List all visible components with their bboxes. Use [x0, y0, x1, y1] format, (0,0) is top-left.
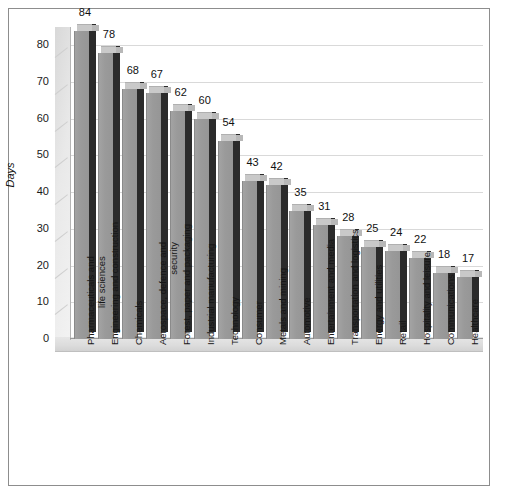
x-tick-label-line: Industrial manufacturing: [205, 244, 216, 345]
y-tick-label: 0: [19, 332, 49, 344]
bar-value-label: 78: [94, 28, 124, 40]
bar-top-face: [460, 270, 475, 277]
x-tick-label: Technology: [229, 297, 240, 345]
bar-top-side-face: [475, 271, 482, 277]
x-tick-label-line: Engineering and construction: [109, 222, 120, 345]
bar-top-face: [436, 266, 451, 273]
x-tick-label-line: Energy and utilities: [373, 265, 384, 345]
x-tick-label: Aerospace, defence andsecurity: [157, 242, 179, 345]
bar-top-face: [173, 104, 188, 111]
x-tick-label-line: Transportation and logistics: [349, 229, 360, 345]
bar-top-face: [269, 178, 284, 185]
bar-side-face: [137, 82, 144, 332]
x-tick-label-line: Retail: [397, 321, 408, 345]
bar-top-side-face: [403, 245, 410, 251]
x-tick-label-line: Healthcare: [469, 299, 480, 345]
x-tick-label-line: life sciences: [96, 256, 107, 345]
y-tick-label: 30: [19, 222, 49, 234]
x-tick-label-line: Pharmaceuticals and: [85, 256, 96, 345]
bar-value-label: 84: [70, 6, 100, 18]
bar-side-face: [400, 244, 407, 332]
x-tick-label: Healthcare: [469, 299, 480, 345]
x-tick-label-line: Entertainment and media: [325, 239, 336, 345]
y-axis-title: Days: [4, 162, 16, 187]
bar-value-label: 67: [142, 68, 172, 80]
x-tick-label: Consumer: [253, 301, 264, 345]
x-tick-label: Retail: [397, 321, 408, 345]
x-tick-label: Entertainment and media: [325, 239, 336, 345]
y-tick-label: 20: [19, 259, 49, 271]
x-tick-label: Industrial manufacturing: [205, 244, 216, 345]
bar-top-face: [77, 24, 92, 31]
bar-top-face: [149, 86, 164, 93]
x-tick-label: Communications: [445, 274, 456, 345]
x-tick-label-line: security: [168, 242, 179, 345]
bar-value-label: 42: [262, 160, 292, 172]
x-tick-label: Chemicals: [133, 301, 144, 345]
y-tick-label: 10: [19, 295, 49, 307]
x-tick-label-line: Automotive: [301, 297, 312, 345]
x-tick-label-line: Hospitality and leisure: [421, 252, 432, 345]
x-tick-label: Energy and utilities: [373, 265, 384, 345]
x-tick-label-line: Communications: [445, 274, 456, 345]
x-tick-label: Engineering and construction: [109, 222, 120, 345]
x-tick-label: Transportation and logistics: [349, 229, 360, 345]
y-axis-tick-labels: 80706050403020100: [17, 27, 49, 339]
y-tick-label: 80: [19, 38, 49, 50]
y-tick-label: 60: [19, 112, 49, 124]
x-axis-tick-labels: Pharmaceuticals andlife sciencesEngineer…: [55, 345, 483, 495]
bar-top-face: [197, 112, 212, 119]
bar-top-side-face: [116, 47, 123, 53]
bar-top-face: [364, 240, 379, 247]
bar-top-side-face: [236, 135, 243, 141]
bar-value-label: 54: [214, 116, 244, 128]
bar-top-face: [101, 46, 116, 53]
x-tick-label: Hospitality and leisure: [421, 252, 432, 345]
bar-top-side-face: [188, 105, 195, 111]
bar-top-face: [316, 218, 331, 225]
chart-left-wall: [55, 27, 70, 339]
x-tick-label-line: Consumer: [253, 301, 264, 345]
bar-value-label: 22: [405, 233, 435, 245]
x-tick-label-line: Metals and mining: [277, 268, 288, 345]
x-tick-label: Automotive: [301, 297, 312, 345]
x-tick-label: Forest, paper and packaging: [181, 224, 192, 345]
bar-top-face: [245, 174, 260, 181]
chart-frame: Days 80706050403020100 84786867626054434…: [8, 8, 490, 486]
bar-value-label: 60: [190, 94, 220, 106]
bar-top-face: [388, 244, 403, 251]
y-tick-label: 70: [19, 75, 49, 87]
x-tick-label-line: Chemicals: [133, 301, 144, 345]
x-tick-label-line: Forest, paper and packaging: [181, 224, 192, 345]
x-tick-label-line: Aerospace, defence and: [157, 242, 168, 345]
y-tick-label: 50: [19, 148, 49, 160]
x-tick-label: Pharmaceuticals andlife sciences: [85, 256, 107, 345]
y-axis-line: [70, 27, 71, 340]
bar-top-face: [221, 134, 236, 141]
bar-top-face: [125, 82, 140, 89]
bar-value-label: 17: [453, 252, 483, 264]
bar-top-side-face: [284, 179, 291, 185]
y-tick-label: 40: [19, 185, 49, 197]
gridline: [70, 45, 483, 46]
x-tick-label-line: Technology: [229, 297, 240, 345]
bar-value-label: 35: [285, 186, 315, 198]
bar-top-face: [292, 204, 307, 211]
x-tick-label: Metals and mining: [277, 268, 288, 345]
